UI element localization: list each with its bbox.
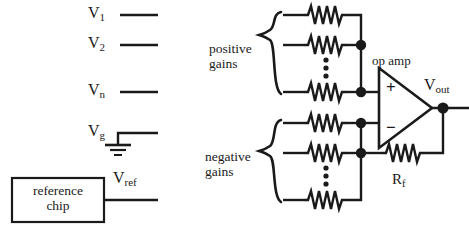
negative-bank-left-leads [283, 123, 304, 200]
resistor-pos-n [304, 83, 348, 101]
resistor-pos-2 [304, 36, 348, 54]
opamp-minus-terminal: − [386, 119, 396, 136]
resistor-neg-2 [304, 144, 348, 162]
circuit-diagram: V1 V2 Vn Vg Vref reference chip positive… [0, 0, 469, 228]
label-vout: Vout [424, 77, 450, 95]
reference-chip-line1: reference [12, 183, 104, 198]
bank-label-negative-line1: negative [205, 150, 251, 165]
brace-positive [259, 12, 281, 94]
bank-label-positive-line1: positive [209, 42, 252, 57]
bank-label-negative-line2: gains [205, 165, 251, 180]
label-vn: Vn [88, 82, 105, 100]
ellipsis-negative [323, 165, 328, 186]
label-v2: V2 [88, 35, 105, 53]
bank-label-negative: negative gains [205, 150, 251, 179]
bank-label-positive-line2: gains [209, 57, 252, 72]
negative-bank-right-leads [348, 123, 382, 200]
positive-bank-resistors [304, 6, 348, 101]
resistor-neg-1 [304, 114, 348, 132]
negative-bank-resistors [304, 114, 348, 209]
bank-label-positive: positive gains [209, 42, 252, 71]
node-positive-upper [356, 40, 366, 50]
label-rf: Rf [392, 172, 406, 189]
label-vg: Vg [88, 123, 105, 141]
resistor-neg-n [304, 191, 348, 209]
input-line-vg [118, 133, 158, 145]
reference-chip-label: reference chip [12, 183, 104, 213]
ground-symbol [105, 145, 131, 155]
node-output [437, 102, 448, 113]
feedback-return-wire [426, 108, 443, 153]
opamp-plus-terminal: + [386, 79, 396, 96]
label-v1: V1 [88, 5, 105, 23]
node-positive-lower [356, 87, 366, 97]
brace-negative [259, 120, 281, 202]
neg-right-n [348, 153, 361, 200]
opamp-label: op amp [372, 54, 411, 67]
node-negative-upper [356, 118, 366, 128]
reference-chip-line2: chip [12, 198, 104, 213]
resistor-rf [382, 144, 426, 162]
node-negative-lower [356, 148, 366, 158]
label-vref: Vref [113, 170, 137, 188]
resistor-pos-1 [304, 6, 348, 24]
positive-bank-left-leads [283, 15, 304, 92]
ellipsis-positive [323, 57, 328, 78]
